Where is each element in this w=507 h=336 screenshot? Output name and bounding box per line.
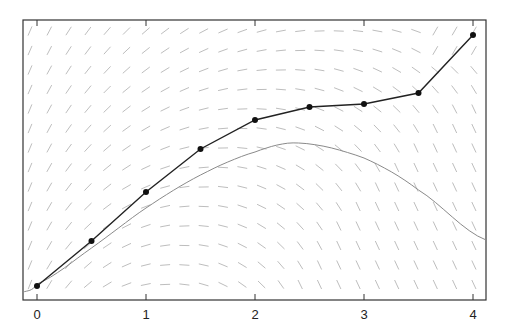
data-point bbox=[416, 90, 422, 96]
data-point bbox=[252, 117, 258, 123]
chart-plot bbox=[0, 0, 507, 336]
x-tick-label: 1 bbox=[142, 307, 149, 322]
data-point bbox=[143, 189, 149, 195]
x-axis-ticks bbox=[37, 20, 473, 300]
x-tick-label: 4 bbox=[469, 307, 476, 322]
plot-frame bbox=[23, 20, 486, 300]
data-point bbox=[34, 283, 40, 289]
data-point bbox=[307, 104, 313, 110]
data-point bbox=[361, 101, 367, 107]
x-tick-label: 2 bbox=[251, 307, 258, 322]
data-points bbox=[34, 32, 476, 289]
slope-field bbox=[28, 26, 477, 289]
data-point bbox=[198, 146, 204, 152]
x-tick-label: 3 bbox=[360, 307, 367, 322]
exact-solution-curve bbox=[23, 143, 486, 292]
data-point bbox=[89, 238, 95, 244]
x-tick-label: 0 bbox=[33, 307, 40, 322]
data-point bbox=[470, 32, 476, 38]
euler-approximation-line bbox=[37, 35, 473, 286]
